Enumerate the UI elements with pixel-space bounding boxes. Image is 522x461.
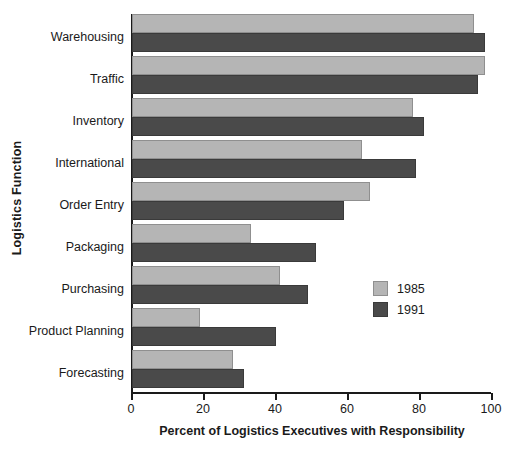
x-axis-line (131, 392, 491, 394)
y-tick-label-purchasing: Purchasing (26, 282, 124, 296)
x-tick-label-100: 100 (481, 402, 502, 416)
x-tick-80 (419, 393, 421, 400)
x-tick-60 (347, 393, 349, 400)
x-tick-label-0: 0 (128, 402, 135, 416)
x-tick-40 (275, 393, 277, 400)
bar-purchasing-1985 (132, 266, 280, 285)
bar-inventory-1985 (132, 98, 413, 117)
y-tick-label-warehousing: Warehousing (26, 30, 124, 44)
bar-order-entry-1991 (132, 201, 344, 220)
x-axis-title: Percent of Logistics Executives with Res… (131, 424, 493, 438)
x-tick-label-20: 20 (196, 402, 210, 416)
bar-international-1991 (132, 159, 416, 178)
plot-area: 020406080100 (131, 10, 493, 392)
chart-legend: 19851991 (373, 278, 425, 320)
bar-purchasing-1991 (132, 285, 308, 304)
x-tick-0 (131, 393, 133, 400)
legend-label-1985: 1985 (397, 282, 425, 296)
legend-item-1991[interactable]: 1991 (373, 299, 425, 320)
y-tick-label-traffic: Traffic (26, 72, 124, 86)
y-axis-tick-labels: WarehousingTrafficInventoryInternational… (30, 14, 128, 392)
y-tick-label-packaging: Packaging (26, 240, 124, 254)
bar-warehousing-1991 (132, 33, 485, 52)
bar-forecasting-1985 (132, 350, 233, 369)
x-tick-100 (491, 393, 493, 400)
x-tick-label-40: 40 (268, 402, 282, 416)
y-tick-label-inventory: Inventory (26, 114, 124, 128)
bar-product-planning-1985 (132, 308, 200, 327)
y-tick-label-order-entry: Order Entry (26, 198, 124, 212)
bar-order-entry-1985 (132, 182, 370, 201)
bar-forecasting-1991 (132, 369, 244, 388)
y-tick-label-product-planning: Product Planning (26, 324, 124, 338)
x-tick-label-60: 60 (340, 402, 354, 416)
bar-packaging-1991 (132, 243, 316, 262)
legend-swatch-1991 (373, 302, 388, 317)
bar-inventory-1991 (132, 117, 424, 136)
bar-chart-figure: Logistics Function WarehousingTrafficInv… (0, 0, 522, 461)
x-tick-label-80: 80 (412, 402, 426, 416)
bar-traffic-1985 (132, 56, 485, 75)
x-tick-20 (203, 393, 205, 400)
y-tick-label-international: International (26, 156, 124, 170)
legend-label-1991: 1991 (397, 303, 425, 317)
bar-traffic-1991 (132, 75, 478, 94)
bar-warehousing-1985 (132, 14, 474, 33)
bar-product-planning-1991 (132, 327, 276, 346)
legend-item-1985[interactable]: 1985 (373, 278, 425, 299)
y-tick-label-forecasting: Forecasting (26, 366, 124, 380)
legend-swatch-1985 (373, 281, 388, 296)
bar-international-1985 (132, 140, 362, 159)
y-axis-title-text: Logistics Function (10, 140, 24, 255)
bar-packaging-1985 (132, 224, 251, 243)
